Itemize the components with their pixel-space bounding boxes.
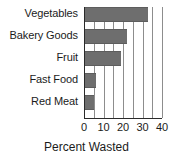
bar-fast-food [85, 73, 96, 88]
bar-fruit [85, 51, 121, 66]
category-label-red-meat: Red Meat [31, 95, 78, 108]
gridline-25 [133, 7, 134, 118]
gridline-35 [152, 7, 153, 118]
x-axis-line [84, 118, 162, 119]
category-label-fruit: Fruit [56, 51, 78, 64]
x-axis-tick-labels: 010203040 [84, 121, 166, 135]
gridline-30 [143, 7, 144, 118]
gridline-40 [162, 7, 163, 118]
x-axis-title: Percent Wasted [0, 140, 173, 154]
bar-red-meat [85, 95, 94, 110]
bar-bakery-goods [85, 29, 127, 44]
gridline-20 [123, 7, 124, 118]
category-label-fast-food: Fast Food [29, 73, 78, 86]
category-label-vegetables: Vegetables [25, 7, 78, 20]
x-tick-label-0: 0 [74, 121, 94, 134]
x-tick-label-10: 10 [94, 121, 114, 134]
bar-vegetables [85, 7, 148, 22]
bar-chart: Vegetables Bakery Goods Fruit Fast Food … [0, 0, 173, 163]
plot-area [84, 7, 162, 118]
y-axis-line [84, 7, 85, 119]
x-tick-label-30: 30 [133, 121, 153, 134]
x-tick-label-40: 40 [152, 121, 172, 134]
category-axis-labels: Vegetables Bakery Goods Fruit Fast Food … [0, 7, 81, 118]
x-tick-label-20: 20 [113, 121, 133, 134]
category-label-bakery-goods: Bakery Goods [9, 29, 78, 42]
